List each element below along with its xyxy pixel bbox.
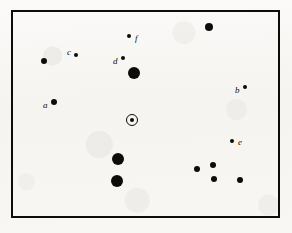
star-label-a: a: [43, 101, 48, 110]
star-chart-figure: abcdef: [0, 0, 292, 233]
star-label-b: b: [235, 86, 240, 95]
star-label-d: d: [113, 57, 118, 66]
star-label-f: f: [135, 34, 138, 43]
reference-object-core: [130, 118, 134, 122]
reference-object-marker: [126, 114, 138, 126]
star-label-e: e: [238, 138, 242, 147]
star-marker: [112, 153, 124, 165]
star-marker: [211, 176, 217, 182]
star-marker: [205, 23, 213, 31]
chart-frame-border: [11, 10, 280, 218]
star-marker-a: [51, 99, 57, 105]
star-label-c: c: [67, 48, 71, 57]
star-marker: [111, 175, 123, 187]
